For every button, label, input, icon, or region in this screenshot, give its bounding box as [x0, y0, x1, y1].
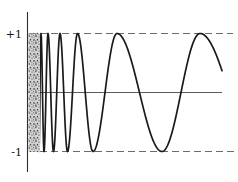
plus-one-label: +1 [6, 28, 22, 41]
figure-svg: +1 -1 [0, 0, 238, 182]
stipple-band [29, 34, 41, 153]
figure: +1 -1 [0, 0, 238, 182]
minus-one-label: -1 [11, 146, 22, 159]
